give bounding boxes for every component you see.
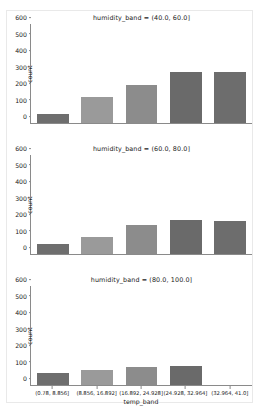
- y-tick-label: 100: [15, 358, 31, 365]
- bar-slot: [75, 155, 119, 254]
- bar-slot: [119, 286, 163, 385]
- bar[interactable]: [214, 72, 246, 123]
- axes-right-spine: [252, 24, 253, 123]
- y-tick-label: 500: [15, 30, 31, 37]
- y-tick-label: 500: [15, 292, 31, 299]
- facet-panel-humidity-60-80: humidity_band = (60.0, 80.0] count 0 100…: [0, 141, 259, 269]
- y-tick-label: 600: [15, 276, 31, 283]
- bar-slot: [75, 286, 119, 385]
- y-tick-label: 100: [15, 96, 31, 103]
- bar[interactable]: [81, 237, 113, 254]
- x-tick-label: (0.78, 8.856]: [30, 386, 74, 398]
- axes-right-spine: [252, 286, 253, 385]
- y-tick-label: 400: [15, 47, 31, 54]
- x-tick-label: (32.964, 41.0]: [208, 386, 252, 398]
- bar-slot: [164, 286, 208, 385]
- y-tick-label: 0: [23, 375, 31, 382]
- y-tick-label: 600: [15, 14, 31, 21]
- y-tick-label: 300: [15, 194, 31, 201]
- panel-title: humidity_band = (40.0, 60.0]: [30, 14, 253, 22]
- x-tick-label: (24.928, 32.964]: [163, 386, 207, 398]
- bar[interactable]: [126, 85, 158, 123]
- axes-right-spine: [252, 155, 253, 254]
- y-tick-label: 400: [15, 178, 31, 185]
- bar-slot: [164, 155, 208, 254]
- bar-series: [31, 24, 252, 123]
- y-tick-label: 500: [15, 161, 31, 168]
- y-tick-label: 200: [15, 211, 31, 218]
- bar[interactable]: [81, 370, 113, 385]
- y-tick-label: 100: [15, 227, 31, 234]
- bar-slot: [75, 24, 119, 123]
- bar[interactable]: [170, 72, 202, 123]
- bar-slot: [119, 24, 163, 123]
- bar[interactable]: [126, 225, 158, 254]
- y-tick-label: 600: [15, 145, 31, 152]
- y-tick-label: 400: [15, 309, 31, 316]
- bar[interactable]: [81, 97, 113, 123]
- plot-area: count 0 100 200 300 400 500 600: [30, 155, 252, 255]
- x-axis-tick-labels: (0.78, 8.856] (8.856, 16.892] (16.892, 2…: [30, 386, 252, 398]
- bar-slot: [208, 24, 252, 123]
- y-tick-label: 0: [23, 113, 31, 120]
- bar-slot: [208, 286, 252, 385]
- plot-area: count 0 100 200 300 400 500 600: [30, 286, 252, 386]
- bar-chart-figure: humidity_band = (40.0, 60.0] count 0 100…: [0, 0, 259, 411]
- facet-panel-humidity-40-60: humidity_band = (40.0, 60.0] count 0 100…: [0, 10, 259, 138]
- bar[interactable]: [37, 114, 69, 123]
- plot-area: count 0 100 200 300 400 500 600: [30, 24, 252, 124]
- bar[interactable]: [214, 221, 246, 254]
- y-tick-label: 300: [15, 63, 31, 70]
- bar-slot: [31, 286, 75, 385]
- x-tick-label: (8.856, 16.892]: [74, 386, 118, 398]
- y-tick-label: 200: [15, 80, 31, 87]
- bar-series: [31, 286, 252, 385]
- y-tick-label: 300: [15, 325, 31, 332]
- bar[interactable]: [170, 366, 202, 385]
- bar-series: [31, 155, 252, 254]
- x-tick-label: (16.892, 24.928]: [119, 386, 163, 398]
- facet-panel-humidity-80-100: humidity_band = (80.0, 100.0] count 0 10…: [0, 272, 259, 411]
- bar-slot: [31, 155, 75, 254]
- y-tick-label: 200: [15, 342, 31, 349]
- x-axis-label: temp_band: [30, 398, 252, 405]
- y-tick-label: 0: [23, 244, 31, 251]
- bar-slot: [31, 24, 75, 123]
- bar[interactable]: [37, 244, 69, 254]
- panel-title: humidity_band = (80.0, 100.0]: [30, 276, 253, 284]
- bar-slot: [119, 155, 163, 254]
- bar[interactable]: [126, 367, 158, 385]
- bar[interactable]: [170, 220, 202, 254]
- bar[interactable]: [37, 373, 69, 385]
- bar-slot: [208, 155, 252, 254]
- panel-title: humidity_band = (60.0, 80.0]: [30, 145, 253, 153]
- bar-slot: [164, 24, 208, 123]
